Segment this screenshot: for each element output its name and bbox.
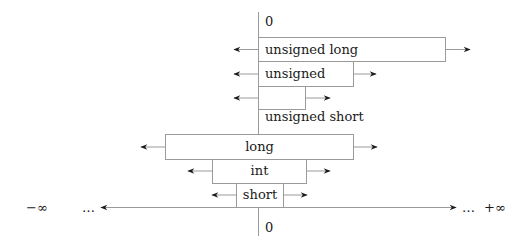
neg-infinity-label: −∞: [26, 200, 48, 215]
label-short: short: [243, 187, 278, 202]
label-unsigned-long: unsigned long: [265, 42, 358, 57]
pos-infinity-label: +∞: [484, 200, 506, 215]
label-unsigned: unsigned: [265, 66, 325, 81]
bottom-zero-label: 0: [265, 220, 273, 235]
right-ellipsis: …: [462, 200, 475, 215]
box-unsigned-short: [259, 87, 306, 110]
label-long: long: [245, 139, 274, 154]
left-ellipsis: …: [82, 200, 95, 215]
top-zero-label: 0: [265, 14, 273, 29]
diagram-svg: 0 unsigned long unsigned unsigned short …: [0, 0, 528, 244]
label-unsigned-short: unsigned short: [265, 109, 365, 124]
label-int: int: [251, 163, 270, 178]
integer-range-diagram: 0 unsigned long unsigned unsigned short …: [0, 0, 528, 244]
